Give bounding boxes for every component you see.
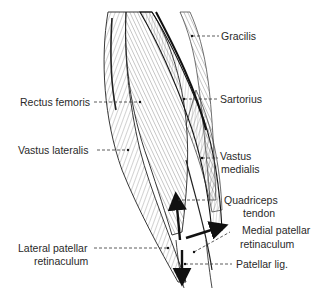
label-medial-patellar-retinaculum-line1: Medial patellar	[242, 224, 310, 236]
label-sartorius: Sartorius	[220, 93, 262, 105]
label-lateral-patellar-retinaculum-line1: Lateral patellar	[18, 242, 87, 254]
label-gracilis: Gracilis	[221, 30, 256, 42]
label-vastus-medialis-line1: Vastus	[220, 150, 251, 162]
label-quadriceps-tendon-line1: Quadriceps	[224, 194, 278, 206]
label-rectus-femoris: Rectus femoris	[20, 96, 90, 108]
anatomy-figure: Gracilis Sartorius Vastus medialis Quadr…	[0, 0, 323, 294]
label-medial-patellar-retinaculum-line2: retinaculum	[240, 238, 294, 250]
label-lateral-patellar-retinaculum-line2: retinaculum	[34, 255, 88, 267]
label-patellar-lig: Patellar lig.	[236, 258, 288, 270]
label-vastus-medialis-line2: medialis	[221, 163, 260, 175]
label-vastus-lateralis: Vastus lateralis	[18, 144, 88, 156]
label-quadriceps-tendon-line2: tendon	[243, 207, 275, 219]
